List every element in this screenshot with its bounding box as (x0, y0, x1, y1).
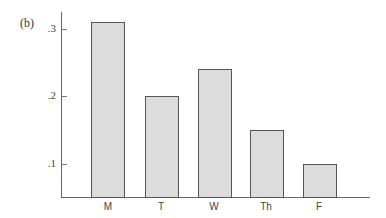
x-tick-label: Th (246, 201, 286, 212)
y-tick (61, 29, 67, 30)
y-tick (61, 96, 67, 97)
x-tick-label: T (141, 201, 181, 212)
bar-chart: (b) .3 .2 .1 M T W Th F (0, 0, 386, 218)
y-tick-label: .3 (36, 22, 56, 34)
y-tick-label: .2 (36, 89, 56, 101)
y-axis (61, 12, 62, 198)
bar-w (198, 69, 232, 198)
x-tick-label: M (88, 201, 128, 212)
bar-th (250, 130, 284, 198)
bar-f (303, 164, 337, 199)
bar-t (145, 96, 179, 198)
x-tick-label: W (194, 201, 234, 212)
y-tick (61, 164, 67, 165)
bar-m (91, 22, 125, 198)
x-tick-label: F (299, 201, 339, 212)
y-tick-label: .1 (36, 157, 56, 169)
panel-label: (b) (20, 16, 34, 31)
